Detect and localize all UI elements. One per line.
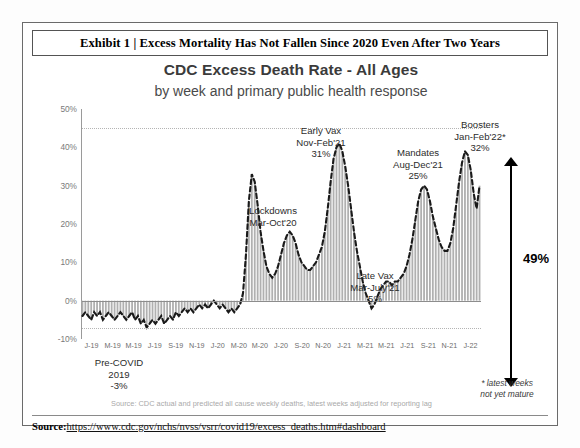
chart-bar — [131, 301, 133, 313]
chart-bar — [303, 266, 305, 301]
maturity-note-line1: * latest weeks — [481, 378, 533, 388]
chart-bar — [312, 266, 314, 301]
chart-bar — [479, 186, 481, 301]
chart-bar — [309, 270, 311, 301]
range-marker-line — [510, 163, 512, 381]
chart-bar — [184, 301, 186, 309]
x-tick-label: M-21 — [357, 341, 373, 350]
chart-bar — [423, 186, 425, 301]
x-tick-label: J-21 — [337, 341, 351, 350]
chart-bar — [114, 301, 116, 320]
x-tick-label: S-20 — [294, 341, 309, 350]
chart-bar — [447, 251, 449, 301]
chart-bar — [108, 301, 110, 313]
chart-bar — [473, 193, 475, 300]
chart-bar — [414, 220, 416, 300]
chart-subtitle: by week and primary public health respon… — [23, 83, 559, 99]
chart-bar — [283, 243, 285, 300]
chart-bar — [435, 228, 437, 301]
x-tick-label: M-19 — [125, 341, 141, 350]
chart-bar — [347, 186, 349, 301]
chart-bar — [286, 236, 288, 301]
chart-bar — [271, 278, 273, 301]
y-tick-label: 0% — [65, 296, 77, 306]
chart-bar — [251, 174, 253, 300]
chart-bar — [295, 243, 297, 300]
x-tick-label: N-20 — [315, 341, 331, 350]
y-tick-label: 20% — [60, 219, 77, 229]
chart-bar — [254, 182, 256, 301]
annotation-lockdowns: LockdownsMar-Oct'20 — [249, 205, 297, 228]
chart-bar — [277, 266, 279, 301]
annotation-line: Late Vax — [350, 270, 399, 282]
chart-bar — [298, 255, 300, 301]
chart-bar — [400, 278, 402, 301]
chart-bar — [409, 255, 411, 301]
chart-bar — [125, 301, 127, 320]
chart-bar — [476, 209, 478, 301]
chart-bar — [321, 247, 323, 301]
chart-bar — [467, 155, 469, 301]
y-tick-label: 10% — [60, 257, 77, 267]
chart-bar — [315, 262, 317, 300]
annotation-line: Jan-Feb'22* — [454, 131, 505, 143]
x-tick-label: J-22 — [463, 341, 477, 350]
y-tick-label: 30% — [60, 181, 77, 191]
chart-bar — [157, 301, 159, 320]
annotation-boosters: BoostersJan-Feb'22*32% — [454, 119, 505, 154]
chart-bar — [338, 144, 340, 301]
chart-bar — [152, 301, 154, 320]
maturity-note: * latest weeks not yet mature — [459, 378, 555, 399]
chart-bar — [160, 301, 162, 316]
chart-bar — [292, 236, 294, 301]
y-tick-label: 50% — [60, 104, 77, 114]
annotation-line: Nov-Feb'21 — [296, 137, 345, 149]
chart-bar — [169, 301, 171, 316]
annotation-line: Mar-July'21 — [350, 282, 399, 294]
chart-title: CDC Excess Death Rate - All Ages — [23, 61, 559, 79]
chart-bar — [344, 167, 346, 301]
chart-bar — [461, 163, 463, 301]
range-marker-label: 49% — [523, 251, 549, 266]
screenshot-page: Exhibit 1 | Excess Mortality Has Not Fal… — [0, 0, 580, 448]
y-axis-tick-labels: 50%40%30%20%10%0%-10% — [43, 109, 77, 339]
footer-source-link[interactable]: https://www.cdc.gov/nchs/nvss/vsrr/covid… — [67, 421, 386, 432]
chart-bar — [406, 266, 408, 301]
chart-bar — [444, 251, 446, 301]
x-tick-label: S-19 — [168, 341, 183, 350]
chart-bar — [318, 255, 320, 301]
annotation-line: Pre-COVID — [95, 357, 144, 369]
gridline — [82, 328, 481, 329]
annotation-pre-covid: Pre-COVID2019-3% — [95, 357, 144, 392]
chart-bar — [306, 270, 308, 301]
chart-bar — [143, 301, 145, 320]
x-tick-label: M-20 — [252, 341, 268, 350]
chart-bar — [155, 301, 157, 324]
x-tick-label: M-20 — [231, 341, 247, 350]
chart-bar — [449, 243, 451, 300]
zero-baseline — [82, 301, 481, 302]
chart-bar — [470, 170, 472, 300]
chart-bar — [166, 301, 168, 320]
chart-bar — [280, 255, 282, 301]
chart-bar — [230, 301, 232, 309]
x-tick-label: J-20 — [274, 341, 288, 350]
annotation-line: 2019 — [95, 369, 144, 381]
chart-bar — [149, 301, 151, 324]
chart-bar — [333, 159, 335, 301]
annotation-line: 31% — [296, 148, 345, 160]
y-tick-label: 40% — [60, 142, 77, 152]
annotation-early-vax: Early VaxNov-Feb'2131% — [296, 125, 345, 160]
chart-bar — [175, 301, 177, 313]
annotation-late-vax: Late VaxMar-July'215% — [350, 270, 399, 305]
chart-bar — [146, 301, 148, 328]
chart-bar — [84, 301, 86, 313]
chart-bar — [429, 201, 431, 301]
x-tick-label: J-19 — [85, 341, 99, 350]
chart-bar — [117, 301, 119, 316]
x-tick-label: N-21 — [442, 341, 458, 350]
chart-bar — [327, 209, 329, 301]
chart-bar — [289, 232, 291, 301]
chart-bar — [420, 190, 422, 301]
chart-bar — [266, 266, 268, 301]
